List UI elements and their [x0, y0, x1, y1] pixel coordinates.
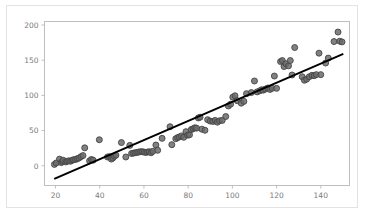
x-axis-ticks: 20406080100120140 [51, 186, 328, 200]
scatter-point [202, 127, 208, 133]
scatter-point [80, 153, 86, 159]
scatter-point [287, 58, 293, 64]
scatter-point [96, 137, 102, 143]
scatter-point [335, 29, 341, 35]
scatter-point [223, 114, 229, 120]
y-axis-ticks: 050100150200 [24, 21, 44, 171]
y-tick-label: 150 [24, 56, 39, 65]
scatter-point [316, 50, 322, 56]
scatter-point [155, 147, 161, 153]
scatter-point [274, 85, 280, 91]
scatter-point [123, 154, 129, 160]
scatter-point [241, 98, 247, 104]
x-tick-label: 20 [51, 191, 61, 200]
x-tick-label: 80 [183, 191, 193, 200]
scatter-point [318, 72, 324, 78]
scatter-point [159, 135, 165, 141]
x-tick-label: 140 [314, 191, 329, 200]
y-tick-label: 50 [29, 126, 39, 135]
x-tick-label: 60 [139, 191, 149, 200]
figure-canvas: 050100150200 20406080100120140 [0, 0, 375, 222]
x-tick-label: 100 [225, 191, 240, 200]
scatter-point [331, 39, 337, 45]
y-tick-label: 100 [24, 91, 39, 100]
scatter-point [118, 140, 124, 146]
scatter-point [82, 145, 88, 151]
scatter-plot: 050100150200 20406080100120140 [0, 0, 375, 222]
scatter-point [169, 142, 175, 148]
x-tick-label: 120 [269, 191, 284, 200]
scatter-point [251, 78, 257, 84]
y-tick-label: 0 [34, 162, 39, 171]
scatter-point [292, 45, 298, 51]
scatter-point [339, 39, 345, 45]
x-tick-label: 40 [95, 191, 105, 200]
scatter-point [271, 73, 277, 79]
y-tick-label: 200 [24, 21, 39, 30]
